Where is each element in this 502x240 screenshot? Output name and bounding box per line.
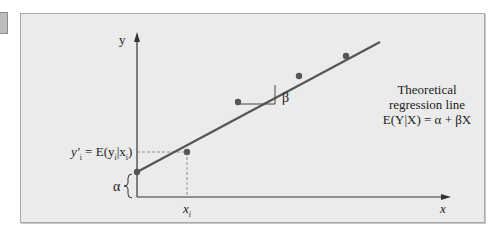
caption-line-1: Theoretical (372, 82, 482, 97)
data-point (296, 73, 302, 79)
beta-label: β (282, 91, 289, 105)
yi-expectation-label: y′i = E(yi|xi) (71, 145, 132, 162)
xi-label: xi (183, 202, 191, 219)
x-axis-arrow-icon (441, 194, 451, 200)
data-point (184, 149, 190, 155)
x-axis-label: x (440, 202, 446, 215)
y-axis-arrow-icon (134, 32, 140, 42)
data-point (343, 53, 349, 59)
alpha-brace-icon (124, 174, 132, 198)
y-axis-label: y (119, 33, 126, 46)
regression-line (137, 42, 380, 172)
alpha-label: α (113, 180, 120, 194)
data-point (235, 99, 241, 105)
caption-line-3: E(Y|X) = α + βX (372, 112, 482, 127)
caption-line-2: regression line (372, 97, 482, 112)
regression-caption: Theoretical regression line E(Y|X) = α +… (372, 82, 482, 127)
intercept-point (134, 169, 140, 175)
